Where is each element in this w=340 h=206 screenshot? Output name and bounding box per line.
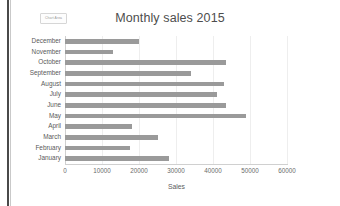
bar[interactable] (65, 146, 130, 151)
category-label: December (32, 36, 61, 47)
category-label: September (30, 68, 61, 79)
category-label: February (35, 143, 61, 154)
category-label: April (48, 121, 61, 132)
chart-title: Monthly sales 2015 (12, 11, 328, 25)
bar-row: August (65, 79, 287, 90)
category-label: January (38, 153, 61, 164)
bar-row: September (65, 68, 287, 79)
bar-row: April (65, 121, 287, 132)
bar-row: May (65, 111, 287, 122)
gridline (287, 36, 288, 164)
plot-area: DecemberNovemberOctoberSeptemberAugustJu… (65, 36, 287, 164)
bar-row: January (65, 153, 287, 164)
bar[interactable] (65, 135, 158, 140)
bar-row: July (65, 89, 287, 100)
bar-row: March (65, 132, 287, 143)
x-tick-label: 30000 (167, 167, 185, 174)
bar[interactable] (65, 71, 191, 76)
bar[interactable] (65, 124, 132, 129)
category-label: October (38, 57, 61, 68)
bar-row: December (65, 36, 287, 47)
x-tick-label: 60000 (278, 167, 296, 174)
bar-row: February (65, 143, 287, 154)
bar[interactable] (65, 103, 226, 108)
x-tick-label: 0 (63, 167, 67, 174)
chart-container[interactable]: Chart Area Monthly sales 2015 DecemberNo… (12, 0, 340, 206)
x-tick-label: 20000 (130, 167, 148, 174)
category-label: July (50, 89, 61, 100)
bar[interactable] (65, 156, 169, 161)
category-label: June (47, 100, 61, 111)
x-tick-label: 10000 (93, 167, 111, 174)
bar[interactable] (65, 82, 224, 87)
window-left-edge (7, 0, 9, 206)
bar[interactable] (65, 114, 246, 119)
category-label: August (41, 79, 61, 90)
category-label: November (32, 47, 61, 58)
x-tick-label: 50000 (241, 167, 259, 174)
bar-row: June (65, 100, 287, 111)
bar[interactable] (65, 92, 217, 97)
x-axis-title: Sales (65, 183, 288, 190)
window-left-edge-inner (10, 0, 11, 206)
category-label: May (49, 111, 61, 122)
bar[interactable] (65, 50, 113, 55)
x-axis-line (65, 164, 288, 165)
bar-row: November (65, 47, 287, 58)
bar-row: October (65, 57, 287, 68)
category-label: March (43, 132, 61, 143)
bar[interactable] (65, 60, 226, 65)
bar[interactable] (65, 39, 139, 44)
x-tick-label: 40000 (204, 167, 222, 174)
